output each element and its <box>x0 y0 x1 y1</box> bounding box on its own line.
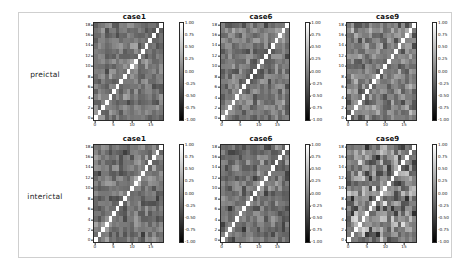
colorbar-tick-mark <box>183 181 185 182</box>
y-tick-label: 8 <box>88 197 91 201</box>
x-tick-mark <box>404 121 405 123</box>
y-tick-label: 8 <box>341 75 344 79</box>
colorbar-tick-mark <box>309 181 311 182</box>
colorbar-tick-mark <box>309 95 311 96</box>
y-tick-label: 16 <box>338 33 343 37</box>
colorbar-tick-label: -1.00 <box>311 118 322 122</box>
y-tick-label: 14 <box>338 165 343 169</box>
colorbar-tick-mark <box>436 108 438 109</box>
axes: 181614121086420051015 <box>220 22 291 121</box>
x-tick-label: 0 <box>94 245 97 249</box>
colorbar-tick-label: -0.50 <box>185 94 196 98</box>
y-tick-mark <box>218 167 220 168</box>
colorbar-tick-label: 0.75 <box>185 155 194 159</box>
x-tick-label: 10 <box>256 123 261 127</box>
panel-interictal-case9: case9 181614121086420051015 1.000.750.50… <box>324 135 451 257</box>
colorbar-tick-label: -1.00 <box>185 118 196 122</box>
x-tick-mark <box>385 121 386 123</box>
colorbar-tick-label: 1.00 <box>438 21 447 25</box>
x-tick-label: 15 <box>275 245 280 249</box>
colorbar-tick-mark <box>436 145 438 146</box>
x-tick-mark <box>240 121 241 123</box>
y-tick-mark <box>218 108 220 109</box>
heatmap-canvas <box>221 23 290 120</box>
y-tick-label: 12 <box>212 176 217 180</box>
colorbar-tick-mark <box>436 169 438 170</box>
axes: 181614121086420051015 <box>220 144 291 243</box>
x-tick-mark <box>258 243 259 245</box>
colorbar-tick-label: -0.50 <box>311 216 322 220</box>
y-tick-mark <box>218 157 220 158</box>
x-tick-label: 5 <box>239 245 242 249</box>
x-tick-label: 0 <box>220 245 223 249</box>
colorbar-tick-mark <box>309 71 311 72</box>
colorbar-tick-label: 0.75 <box>311 33 320 37</box>
x-tick-mark <box>385 243 386 245</box>
y-tick-mark <box>91 24 93 25</box>
heatmap <box>93 144 164 243</box>
axes: 181614121086420051015 <box>346 22 417 121</box>
y-tick-label: 2 <box>214 106 217 110</box>
y-tick-label: 0 <box>214 116 217 120</box>
y-tick-label: 10 <box>338 64 343 68</box>
colorbar-tick-mark <box>309 145 311 146</box>
y-tick-mark <box>218 66 220 67</box>
y-tick-mark <box>218 35 220 36</box>
y-tick-label: 8 <box>214 197 217 201</box>
x-tick-mark <box>113 121 114 123</box>
panel-title: case1 <box>71 135 198 143</box>
y-tick-mark <box>345 240 347 241</box>
colorbar-tick-mark <box>183 23 185 24</box>
y-tick-label: 2 <box>341 228 344 232</box>
colorbar-tick-mark <box>309 83 311 84</box>
row-label-interictal: interictal <box>19 135 71 257</box>
y-tick-mark <box>91 87 93 88</box>
colorbar-tick-label: -0.75 <box>185 228 196 232</box>
colorbar-tick-label: 0.50 <box>185 45 194 49</box>
y-tick-mark <box>345 108 347 109</box>
y-tick-mark <box>91 157 93 158</box>
x-tick-label: 5 <box>112 245 115 249</box>
colorbar-tick-label: 1.00 <box>311 143 320 147</box>
panel-title: case9 <box>324 13 451 21</box>
colorbar-tick-label: -0.25 <box>438 82 449 86</box>
x-tick-mark <box>240 243 241 245</box>
panel-title: case1 <box>71 13 198 21</box>
y-tick-label: 16 <box>212 155 217 159</box>
colorbar-tick-mark <box>183 108 185 109</box>
panel-interictal-case6: case6 181614121086420051015 1.000.750.50… <box>198 135 325 257</box>
y-tick-mark <box>345 198 347 199</box>
y-tick-mark <box>345 167 347 168</box>
y-tick-label: 0 <box>214 238 217 242</box>
y-tick-label: 6 <box>88 207 91 211</box>
x-tick-label: 15 <box>148 245 153 249</box>
colorbar-tick-mark <box>183 242 185 243</box>
x-tick-mark <box>221 121 222 123</box>
colorbar-tick-mark <box>436 71 438 72</box>
colorbar-tick-mark <box>436 181 438 182</box>
x-tick-mark <box>348 121 349 123</box>
colorbar-tick-label: 0.25 <box>311 179 320 183</box>
x-tick-label: 5 <box>365 245 368 249</box>
y-tick-label: 14 <box>338 43 343 47</box>
y-tick-label: 6 <box>341 207 344 211</box>
y-tick-mark <box>218 198 220 199</box>
x-tick-mark <box>277 243 278 245</box>
y-tick-label: 16 <box>338 155 343 159</box>
y-tick-mark <box>91 56 93 57</box>
colorbar-tick-label: 0.75 <box>311 155 320 159</box>
y-tick-mark <box>91 66 93 67</box>
heatmap-canvas <box>94 145 163 242</box>
y-tick-label: 12 <box>85 54 90 58</box>
x-tick-label: 15 <box>275 123 280 127</box>
colorbar-tick-mark <box>436 193 438 194</box>
x-tick-mark <box>132 243 133 245</box>
y-tick-mark <box>218 56 220 57</box>
y-tick-label: 6 <box>214 207 217 211</box>
x-tick-label: 15 <box>401 123 406 127</box>
y-tick-label: 10 <box>85 186 90 190</box>
x-tick-label: 5 <box>365 123 368 127</box>
colorbar-tick-label: -0.25 <box>185 204 196 208</box>
colorbar-tick-label: 0.50 <box>438 45 447 49</box>
heatmap-canvas <box>221 145 290 242</box>
